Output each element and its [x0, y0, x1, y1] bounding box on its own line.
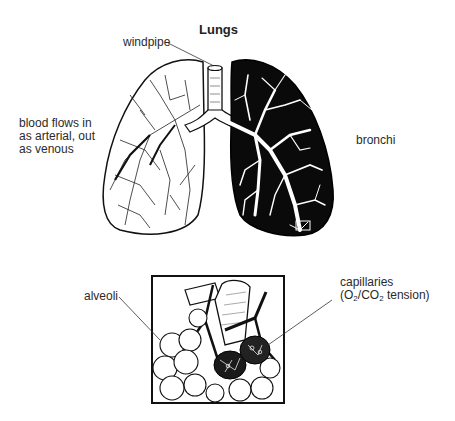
label-blood-flow-line3: as venous [19, 143, 95, 156]
label-capillaries: capillaries (O2/CO2 tension) [340, 276, 430, 302]
lungs-illustration [0, 0, 455, 421]
right-lung [228, 60, 333, 236]
capillaries-tension-text: tension) [384, 288, 430, 302]
left-lung [103, 60, 204, 234]
capillaries-co-text: /CO [358, 288, 379, 302]
alveoli-inset [152, 276, 284, 403]
label-alveoli: alveoli [84, 290, 118, 303]
label-capillaries-line2: (O2/CO2 tension) [340, 289, 430, 302]
label-windpipe: windpipe [123, 36, 170, 49]
label-blood-flow: blood flows in as arterial, out as venou… [19, 117, 95, 156]
diagram-title: Lungs [199, 22, 238, 37]
capillaries-o-text: (O [340, 288, 353, 302]
label-bronchi: bronchi [356, 134, 395, 147]
